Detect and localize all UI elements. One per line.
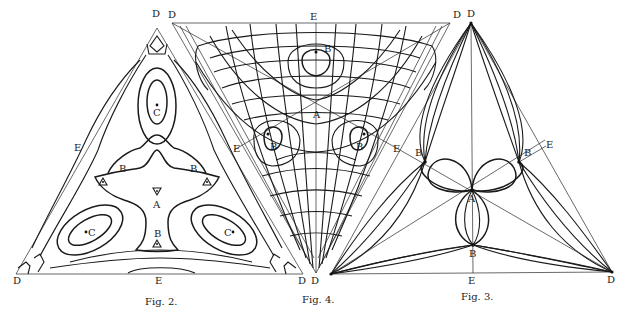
fig2-label-left-c: C: [88, 227, 96, 238]
fig4-label-left-b: B: [270, 141, 277, 152]
fig2-label-top-c: C: [153, 107, 161, 118]
fig3-label-right-e: E: [546, 139, 553, 150]
fig2-label-left-e: E: [74, 142, 81, 153]
fig4-label-right-b: B: [356, 141, 363, 152]
fig2-label-bottom-e: E: [155, 275, 162, 286]
fig2-label-upper-right-b: B: [190, 163, 197, 174]
fig4-label-top-b: B: [324, 43, 331, 54]
fig2-label-bottom-left-d: D: [13, 275, 21, 286]
fig2-label-center-a: A: [152, 199, 161, 210]
fig3-label-bottom-e: E: [468, 275, 475, 286]
fig3-caption: Fig. 3.: [461, 291, 493, 302]
fig3-label-apex-d: D: [467, 8, 475, 19]
fig4-label-top-left-d: D: [168, 9, 176, 20]
fig3-label-right-b: B: [524, 147, 531, 158]
fig4-label-center-a: A: [312, 109, 321, 120]
figure-plate: D E E D D C C C A B B B Fig. 2.: [0, 0, 628, 319]
fig3-label-bottom-right-d: D: [607, 274, 615, 285]
fig2-label-lower-b: B: [154, 228, 161, 239]
fig2-label-right-c: C: [224, 227, 232, 238]
fig2-caption: Fig. 2.: [145, 296, 177, 307]
fig3-label-center-a: A: [467, 193, 476, 204]
fig2-label-bottom-right-d: D: [298, 275, 306, 286]
fig4-label-bottom-d: D: [311, 275, 319, 286]
fig4-label-top-right-d: D: [453, 9, 461, 20]
fig4-label-left-e: E: [233, 143, 240, 154]
fig4-label-top-e: E: [310, 11, 317, 22]
fig3-label-left-b: B: [415, 147, 422, 158]
fig3-label-bottom-b: B: [469, 248, 476, 259]
fig4-caption: Fig. 4.: [302, 294, 334, 305]
fig2-label-upper-left-b: B: [119, 163, 126, 174]
fig2-label-apex-d: D: [152, 8, 160, 19]
